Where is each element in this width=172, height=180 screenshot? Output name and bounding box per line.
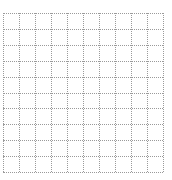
grid-horizontal-line bbox=[3, 140, 163, 141]
grid-vertical-line bbox=[163, 13, 164, 172]
grid-horizontal-line bbox=[3, 124, 163, 125]
grid-horizontal-line bbox=[3, 93, 163, 94]
grid-horizontal-line bbox=[3, 61, 163, 62]
grid-horizontal-line bbox=[3, 172, 163, 173]
grid-horizontal-line bbox=[3, 108, 163, 109]
dotted-grid bbox=[3, 13, 163, 172]
grid-horizontal-line bbox=[3, 156, 163, 157]
grid-horizontal-line bbox=[3, 13, 163, 14]
grid-horizontal-line bbox=[3, 77, 163, 78]
grid-horizontal-line bbox=[3, 29, 163, 30]
grid-horizontal-line bbox=[3, 45, 163, 46]
